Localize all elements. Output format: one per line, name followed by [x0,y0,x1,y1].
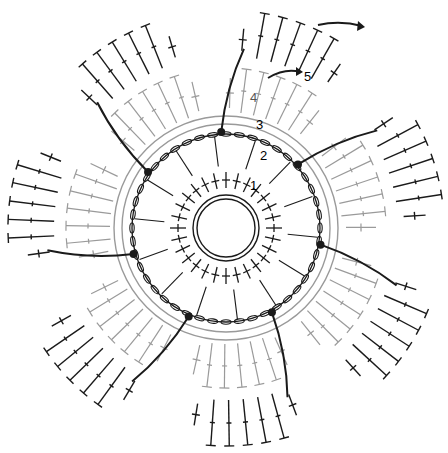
magic-ring-inner [197,199,255,257]
join-point [185,312,193,320]
long-stitch [176,151,192,176]
join-arrow [272,312,288,397]
long-stitch [234,290,238,320]
grey-ring-inner [122,124,330,332]
black-petals [8,13,442,446]
rings [114,116,338,340]
join-arrows [47,21,396,397]
long-stitch [269,162,290,183]
join-arrow [221,49,244,132]
long-stitch [279,260,305,276]
long-stitch [260,280,276,305]
round-label-4: 4 [250,90,257,105]
join-arrow [132,316,189,381]
round-label-3: 3 [256,117,263,132]
chain-ring [132,134,320,322]
magic-ring-outer [193,195,259,261]
long-stitch [215,137,219,167]
join-point [317,241,325,249]
long-stitch [197,287,207,315]
direction-arrow [268,71,300,78]
long-stitch [288,234,318,237]
direction-arrow [318,23,362,26]
grey-ring-outer [114,116,338,340]
join-arrow [97,102,148,172]
join-arrow [47,250,133,256]
long-stitch [134,219,164,222]
long-stitch [246,141,256,169]
round-label-2: 2 [260,148,267,163]
join-point [217,128,225,136]
join-point [130,250,138,258]
long-stitch [140,249,168,259]
join-point [144,168,152,176]
long-stitch [284,197,312,207]
long-stitch [162,272,183,293]
round-label-1: 1 [250,178,257,193]
crochet-diagram: 1 2 3 4 5 [0,0,448,453]
join-point [268,308,276,316]
join-point [294,160,302,168]
long-stitch [148,180,174,196]
arrowhead-icon [357,21,365,31]
join-arrow [298,130,377,164]
round-label-5: 5 [304,69,311,84]
